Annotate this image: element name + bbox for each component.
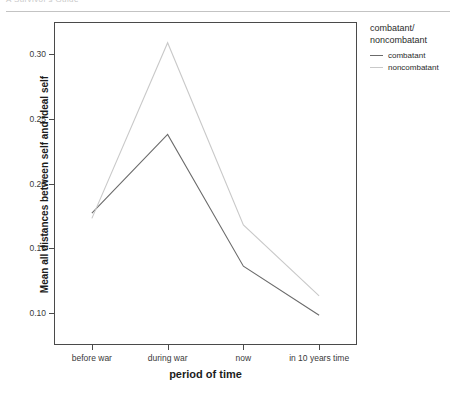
- y-tick-mark: [49, 54, 54, 55]
- legend-entries: combatantnoncombatant: [370, 51, 456, 72]
- header-divider: [6, 11, 450, 12]
- chart-figure: 0.100.150.200.250.30 before warduring wa…: [0, 14, 456, 398]
- x-tick-label: now: [236, 353, 252, 363]
- legend: combatant/ noncombatant combatantnoncomb…: [370, 22, 456, 75]
- y-tick-mark: [49, 119, 54, 120]
- x-tick-mark: [319, 345, 320, 350]
- x-tick-label: before war: [72, 353, 112, 363]
- x-tick-mark: [168, 345, 169, 350]
- legend-line-swatch-icon: [370, 67, 383, 68]
- page-header-text: A Survivor's Guide: [6, 0, 79, 4]
- legend-entry-label: combatant: [388, 51, 425, 60]
- legend-title: combatant/ noncombatant: [370, 22, 456, 46]
- legend-title-line-1: combatant/: [370, 22, 456, 34]
- x-tick-label: in 10 years time: [289, 353, 349, 363]
- legend-line-swatch-icon: [370, 55, 383, 56]
- y-tick-mark: [49, 184, 54, 185]
- line-series-combatant: [92, 134, 319, 315]
- x-tick-mark: [92, 345, 93, 350]
- legend-entry-noncombatant: noncombatant: [370, 63, 456, 72]
- line-series-noncombatant: [92, 43, 319, 296]
- y-axis-title: Mean all distances between self and idea…: [39, 35, 50, 335]
- legend-entry-combatant: combatant: [370, 51, 456, 60]
- plot-series-canvas: [54, 22, 357, 345]
- legend-title-line-2: noncombatant: [370, 34, 456, 46]
- y-tick-mark: [49, 248, 54, 249]
- legend-entry-label: noncombatant: [388, 63, 439, 72]
- x-tick-mark: [243, 345, 244, 350]
- x-tick-label: during war: [148, 353, 188, 363]
- page-header-strip: A Survivor's Guide: [0, 0, 456, 14]
- x-axis-title: period of time: [54, 368, 357, 380]
- y-tick-mark: [49, 313, 54, 314]
